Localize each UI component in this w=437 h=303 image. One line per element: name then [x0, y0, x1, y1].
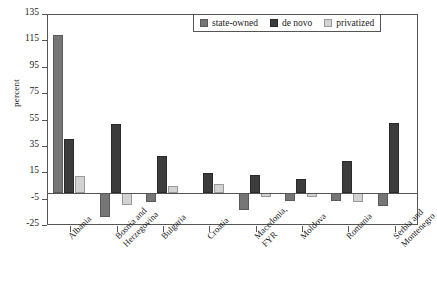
y-tick-label: 95: [30, 60, 40, 70]
y-tick-mark: [42, 40, 47, 41]
legend-item[interactable]: state-owned: [200, 18, 258, 28]
footnote: [6, 296, 425, 303]
bar: [331, 193, 341, 201]
bar: [75, 176, 85, 193]
y-tick-mark: [42, 225, 47, 226]
state-owned-swatch: [200, 19, 208, 27]
legend-item[interactable]: de novo: [270, 18, 312, 28]
y-tick-label: 115: [25, 33, 39, 43]
y-tick-mark: [42, 93, 47, 94]
y-tick-mark: [42, 146, 47, 147]
bar: [214, 184, 224, 193]
bar: [64, 139, 74, 193]
plot-area: [47, 14, 418, 225]
bar: [122, 193, 132, 205]
privatized-swatch: [324, 19, 332, 27]
bar: [168, 186, 178, 193]
y-tick-label: 135: [25, 7, 39, 17]
de-novo-swatch: [270, 19, 278, 27]
legend: state-ownedde novoprivatized: [193, 14, 381, 32]
y-tick-label: -25: [26, 218, 39, 228]
y-axis-title: percent: [11, 53, 21, 133]
bar: [146, 193, 156, 202]
y-tick-mark: [42, 199, 47, 200]
bar: [157, 156, 167, 193]
y-tick-mark: [42, 120, 47, 121]
bar: [296, 179, 306, 194]
bar: [353, 193, 363, 202]
y-tick-label: 55: [30, 113, 40, 123]
y-tick-label: 35: [30, 139, 40, 149]
bar: [239, 193, 249, 210]
legend-label: state-owned: [212, 18, 258, 28]
bar: [203, 173, 213, 193]
legend-label: de novo: [282, 18, 312, 28]
y-tick-mark: [42, 67, 47, 68]
y-tick-mark: [42, 14, 47, 15]
legend-label: privatized: [336, 18, 374, 28]
y-tick-label: -5: [31, 192, 39, 202]
bar: [53, 35, 63, 193]
bar: [100, 193, 110, 217]
bar: [285, 193, 295, 201]
y-tick-label: 15: [30, 165, 40, 175]
y-tick-label: 75: [30, 86, 40, 96]
bar: [342, 161, 352, 193]
bar: [389, 123, 399, 193]
bar: [378, 193, 388, 206]
legend-item[interactable]: privatized: [324, 18, 374, 28]
bar: [250, 175, 260, 193]
zero-baseline: [48, 193, 417, 194]
y-tick-mark: [42, 172, 47, 173]
bar: [111, 124, 121, 193]
